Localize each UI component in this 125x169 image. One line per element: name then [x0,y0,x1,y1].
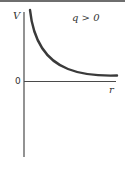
y-axis-label: V [13,11,20,21]
origin-label: 0 [15,77,21,86]
diagram-frame: V 0 r q > 0 [0,0,125,169]
x-axis-label: r [109,85,114,95]
charge-annotation: q > 0 [72,13,100,23]
